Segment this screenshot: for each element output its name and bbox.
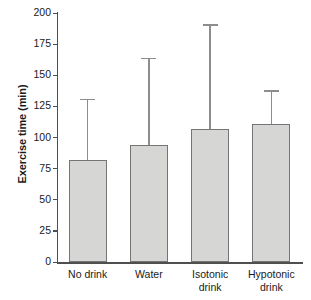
y-tick-label: 0: [45, 255, 51, 268]
y-tick-label: 75: [39, 162, 51, 175]
y-tick-mark: [53, 230, 57, 231]
y-tick-mark: [53, 262, 57, 263]
error-bar-stem: [148, 58, 149, 145]
y-tick-mark: [53, 75, 57, 76]
error-bar-cap: [203, 24, 218, 25]
y-tick-label: 25: [39, 224, 51, 237]
error-bar-cap: [264, 90, 279, 91]
x-axis-line: [57, 262, 303, 264]
bar: [191, 129, 229, 262]
x-category-label: No drink: [57, 268, 118, 281]
bar: [69, 160, 107, 262]
bar: [252, 124, 290, 262]
y-tick-label: 100: [33, 131, 51, 144]
error-bar-stem: [209, 24, 210, 129]
x-category-label: Water: [118, 268, 179, 281]
error-bar-cap: [80, 99, 95, 100]
x-category-label: Hypotonic drink: [241, 268, 302, 293]
y-axis-title: Exercise time (min): [16, 44, 28, 224]
y-tick-mark: [53, 199, 57, 200]
y-tick-mark: [53, 13, 57, 14]
bar-chart-figure: Exercise time (min) 02550751001251501752…: [0, 0, 311, 300]
x-category-label: Isotonic drink: [180, 268, 241, 293]
y-tick-mark: [53, 44, 57, 45]
y-tick-mark: [53, 106, 57, 107]
y-tick-mark: [53, 137, 57, 138]
y-tick-label: 50: [39, 193, 51, 206]
bar: [130, 145, 168, 262]
plot-area: 0255075100125150175200: [57, 13, 302, 262]
error-bar-stem: [87, 99, 88, 160]
error-bar-stem: [271, 90, 272, 124]
y-tick-label: 125: [33, 99, 51, 112]
y-tick-label: 150: [33, 68, 51, 81]
y-tick-mark: [53, 168, 57, 169]
y-tick-label: 200: [33, 6, 51, 19]
error-bar-cap: [141, 58, 156, 59]
y-tick-label: 175: [33, 37, 51, 50]
